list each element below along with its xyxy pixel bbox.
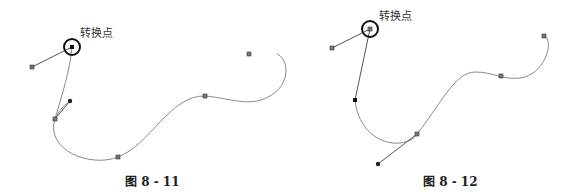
conversion-point-label: 转换点 bbox=[379, 7, 412, 23]
curve-path bbox=[417, 36, 548, 134]
handle-point bbox=[376, 162, 380, 166]
direction-line bbox=[332, 29, 370, 48]
figure-8-11 bbox=[30, 39, 286, 160]
curve-path bbox=[54, 54, 286, 160]
figure-caption: 图 8 - 12 bbox=[423, 172, 478, 189]
anchor-point bbox=[542, 34, 546, 38]
conversion-point bbox=[368, 27, 372, 31]
anchor-point bbox=[116, 155, 120, 159]
curve-segment bbox=[355, 100, 417, 143]
conversion-point-label: 转换点 bbox=[80, 24, 113, 40]
handle-point bbox=[68, 99, 72, 103]
anchor-point bbox=[499, 74, 503, 78]
figure-8-12 bbox=[330, 21, 548, 166]
anchor-point bbox=[30, 65, 34, 69]
anchor-point bbox=[53, 117, 57, 121]
figure-caption: 图 8 - 11 bbox=[125, 172, 180, 189]
direction-line bbox=[32, 47, 72, 67]
anchor-point bbox=[247, 52, 251, 56]
conversion-point bbox=[70, 45, 74, 49]
anchor-point bbox=[330, 46, 334, 50]
direction-line bbox=[378, 134, 417, 164]
anchor-point bbox=[353, 98, 357, 102]
anchor-point bbox=[203, 94, 207, 98]
anchor-point bbox=[415, 132, 419, 136]
direction-line bbox=[355, 29, 370, 100]
